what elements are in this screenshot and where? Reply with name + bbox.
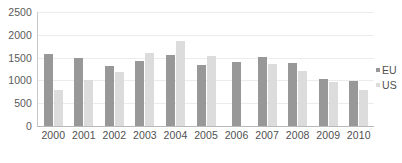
bar-eu-2007[interactable] — [258, 57, 267, 126]
legend-swatch-icon — [376, 68, 380, 72]
x-tick-label: 2003 — [130, 129, 161, 141]
y-tick-label: 2500 — [8, 6, 32, 18]
bar-us-2000[interactable] — [54, 90, 63, 126]
bar-us-2005[interactable] — [207, 56, 216, 126]
bar-eu-2001[interactable] — [74, 58, 83, 126]
legend-item-eu[interactable]: EU — [376, 62, 402, 77]
x-tick-label: 2001 — [69, 129, 100, 141]
x-tick-label: 2009 — [313, 129, 344, 141]
y-tick-label: 0 — [26, 120, 32, 132]
bar-chart: 05001000150020002500 2000200120022003200… — [0, 0, 402, 163]
bar-group — [282, 12, 313, 126]
legend-item-us[interactable]: US — [376, 77, 402, 92]
bar-group — [160, 12, 191, 126]
bar-group — [99, 12, 130, 126]
x-tick-label: 2008 — [282, 129, 313, 141]
x-tick-label: 2005 — [191, 129, 222, 141]
bar-eu-2009[interactable] — [319, 79, 328, 126]
y-tick-label: 1000 — [8, 74, 32, 86]
bar-group — [343, 12, 374, 126]
bars-layer — [38, 12, 374, 126]
bar-group — [252, 12, 283, 126]
bar-us-2008[interactable] — [298, 71, 307, 126]
bar-group — [69, 12, 100, 126]
bar-eu-2003[interactable] — [135, 61, 144, 126]
x-tick-label: 2010 — [343, 129, 374, 141]
x-axis-line — [37, 126, 374, 127]
bar-eu-2004[interactable] — [166, 55, 175, 126]
bar-us-2007[interactable] — [268, 64, 277, 126]
legend-label: EU — [382, 64, 397, 76]
x-tick-label: 2004 — [160, 129, 191, 141]
bar-eu-2005[interactable] — [197, 65, 206, 126]
x-tick-label: 2006 — [221, 129, 252, 141]
bar-group — [221, 12, 252, 126]
y-axis: 05001000150020002500 — [0, 0, 36, 163]
x-axis: 2000200120022003200420052006200720082009… — [38, 129, 374, 141]
bar-group — [191, 12, 222, 126]
legend-swatch-icon — [376, 83, 380, 87]
legend-label: US — [382, 79, 397, 91]
y-tick-label: 1500 — [8, 52, 32, 64]
bar-eu-2010[interactable] — [349, 81, 358, 126]
x-tick-label: 2002 — [99, 129, 130, 141]
bar-us-2002[interactable] — [115, 72, 124, 126]
bar-us-2009[interactable] — [329, 82, 338, 126]
bar-group — [38, 12, 69, 126]
x-tick-label: 2000 — [38, 129, 69, 141]
bar-eu-2006[interactable] — [232, 62, 241, 126]
chart-legend: EUUS — [376, 62, 402, 92]
y-tick-label: 500 — [14, 97, 32, 109]
bar-group — [313, 12, 344, 126]
bar-us-2010[interactable] — [359, 90, 368, 126]
bar-eu-2000[interactable] — [44, 54, 53, 127]
bar-us-2001[interactable] — [84, 80, 93, 126]
y-tick-label: 2000 — [8, 29, 32, 41]
plot-area — [38, 12, 374, 126]
bar-us-2003[interactable] — [145, 53, 154, 126]
bar-eu-2002[interactable] — [105, 66, 114, 126]
bar-eu-2008[interactable] — [288, 63, 297, 126]
bar-us-2004[interactable] — [176, 41, 185, 126]
bar-group — [130, 12, 161, 126]
x-tick-label: 2007 — [252, 129, 283, 141]
